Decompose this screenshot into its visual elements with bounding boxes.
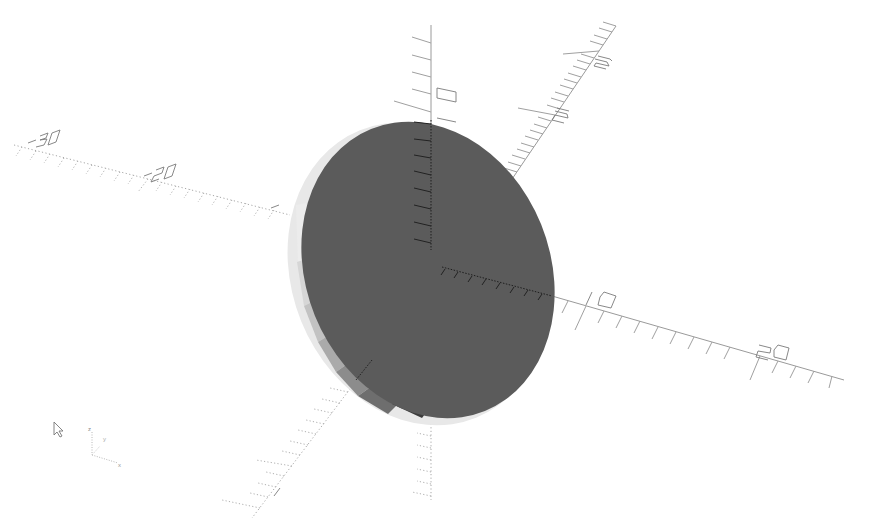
x-axis-label-minus-10-fragment <box>271 205 279 208</box>
y-axis-label-30: 30 <box>0 0 612 69</box>
y-axis-label-fragment <box>274 488 280 496</box>
y-axis-positive <box>498 22 616 185</box>
gizmo-x-label: x <box>118 462 121 468</box>
gizmo-y-label: y <box>103 436 106 442</box>
svg-text:0: 0 <box>0 0 10 4</box>
mouse-pointer-icon <box>54 422 63 437</box>
z-axis-negative <box>412 420 431 500</box>
z-axis-label-10: 10 <box>0 0 456 122</box>
x-axis-label-minus-20 <box>144 164 176 182</box>
y-axis-label-20: 20 <box>0 0 569 123</box>
gizmo-z-label: z <box>88 426 91 432</box>
disk-object[interactable] <box>243 83 598 465</box>
x-axis-positive <box>552 296 844 388</box>
orientation-gizmo: z y x <box>88 426 121 468</box>
3d-viewport[interactable]: -30 <box>0 0 869 518</box>
x-axis-label-minus-30: -30 <box>0 0 60 147</box>
disk-face <box>258 83 598 456</box>
